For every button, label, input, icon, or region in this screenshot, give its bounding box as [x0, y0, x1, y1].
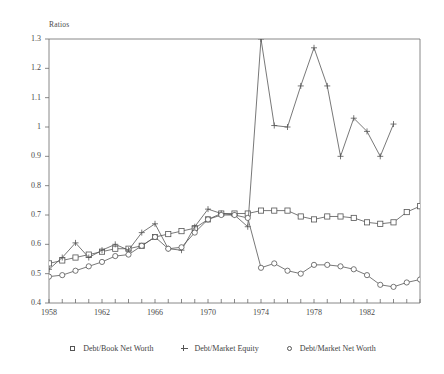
circle-marker	[272, 261, 277, 266]
x-tick-label: 1970	[191, 308, 225, 317]
plus-marker	[285, 124, 291, 130]
square-marker	[179, 229, 184, 234]
y-axis-ticks	[45, 39, 49, 303]
plus-marker	[258, 36, 264, 42]
y-tick-label: 1.1	[15, 93, 41, 102]
y-tick-label: 0.5	[15, 269, 41, 278]
plus-marker	[139, 230, 145, 236]
circle-marker	[285, 344, 294, 353]
series-1	[46, 36, 397, 272]
plus-marker	[205, 206, 211, 212]
plus-marker	[324, 83, 330, 89]
circle-marker	[46, 274, 51, 279]
plus-marker	[391, 121, 397, 127]
x-axis-ticks	[49, 299, 420, 303]
x-tick-label: 1982	[350, 308, 384, 317]
circle-marker	[404, 280, 409, 285]
plus-marker	[271, 123, 277, 129]
x-tick-label: 1978	[297, 308, 331, 317]
plus-marker	[311, 45, 317, 51]
legend-entry-0: Debt/Book Net Worth	[68, 344, 153, 353]
x-tick-label: 1962	[85, 308, 119, 317]
circle-marker	[311, 262, 316, 267]
circle-marker	[152, 234, 157, 239]
y-tick-label: 1	[15, 122, 41, 131]
square-marker	[285, 208, 290, 213]
circle-marker	[126, 252, 131, 257]
circle-marker	[166, 246, 171, 251]
ratios-line-chart: Ratios 0.40.50.60.70.80.911.11.21.3 1958…	[0, 0, 444, 374]
circle-marker	[219, 212, 224, 217]
circle-marker	[232, 212, 237, 217]
circle-marker	[258, 265, 263, 270]
circle-marker	[73, 268, 78, 273]
plus-marker	[152, 221, 158, 227]
plot-frame	[49, 39, 420, 303]
circle-marker	[86, 264, 91, 269]
square-marker	[298, 214, 303, 219]
square-marker	[73, 255, 78, 260]
circle-marker	[60, 273, 65, 278]
x-tick-label: 1966	[138, 308, 172, 317]
circle-marker	[245, 215, 250, 220]
y-axis-title: Ratios	[49, 20, 69, 29]
legend-label: Debt/Book Net Worth	[83, 344, 153, 353]
circle-marker	[325, 262, 330, 267]
y-tick-label: 0.6	[15, 239, 41, 248]
legend-entry-1: Debt/Market Equity	[180, 344, 259, 353]
plus-marker	[338, 153, 344, 159]
plus-marker	[180, 344, 189, 353]
circle-marker	[192, 230, 197, 235]
x-tick-label: 1974	[244, 308, 278, 317]
y-tick-label: 0.9	[15, 151, 41, 160]
square-marker	[364, 220, 369, 225]
y-tick-label: 1.2	[15, 63, 41, 72]
circle-marker	[417, 277, 422, 282]
y-tick-label: 0.7	[15, 210, 41, 219]
y-tick-label: 1.3	[15, 34, 41, 43]
circle-marker	[139, 243, 144, 248]
legend-label: Debt/Market Net Worth	[300, 344, 376, 353]
circle-marker	[205, 217, 210, 222]
square-marker	[391, 220, 396, 225]
x-tick-label: 1958	[32, 308, 66, 317]
circle-marker	[338, 264, 343, 269]
square-marker	[325, 214, 330, 219]
square-marker	[311, 217, 316, 222]
circle-marker	[99, 259, 104, 264]
square-marker	[166, 231, 171, 236]
circle-marker	[179, 245, 184, 250]
square-marker	[417, 204, 422, 209]
legend-label: Debt/Market Equity	[195, 344, 259, 353]
square-marker	[378, 221, 383, 226]
square-marker	[258, 208, 263, 213]
circle-marker	[378, 282, 383, 287]
circle-marker	[298, 271, 303, 276]
legend-entry-2: Debt/Market Net Worth	[285, 344, 376, 353]
square-marker	[338, 214, 343, 219]
circle-marker	[285, 268, 290, 273]
plot-area	[0, 0, 444, 374]
chart-legend: Debt/Book Net WorthDebt/Market EquityDeb…	[0, 336, 444, 360]
circle-marker	[351, 267, 356, 272]
circle-marker	[391, 284, 396, 289]
square-marker	[351, 215, 356, 220]
square-marker	[46, 261, 51, 266]
plus-marker	[298, 83, 304, 89]
square-marker	[68, 344, 77, 353]
square-marker	[272, 208, 277, 213]
y-tick-label: 0.4	[15, 298, 41, 307]
circle-marker	[113, 253, 118, 258]
square-marker	[404, 209, 409, 214]
y-tick-label: 0.8	[15, 181, 41, 190]
circle-marker	[364, 273, 369, 278]
plus-marker	[377, 153, 383, 159]
